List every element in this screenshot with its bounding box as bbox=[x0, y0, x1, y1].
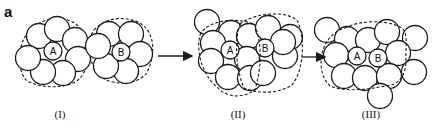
atom-circle bbox=[216, 65, 241, 90]
panel-label: (II) bbox=[231, 108, 246, 121]
atom-circle bbox=[86, 34, 111, 59]
atom-label: B bbox=[262, 43, 269, 54]
atom-circle bbox=[368, 84, 393, 109]
panel-label: (I) bbox=[55, 108, 66, 121]
aggregation-diagram: a AB(I) AB(II) AB(III) bbox=[0, 0, 444, 130]
figure-label: a bbox=[4, 3, 13, 20]
atom-label: B bbox=[375, 53, 382, 64]
atom-circle bbox=[251, 61, 276, 86]
atom-circle bbox=[402, 60, 427, 85]
atom-label: A bbox=[354, 51, 361, 62]
panel-i: AB(I) bbox=[16, 17, 153, 122]
panel-iii: AB(III) bbox=[315, 18, 428, 122]
atom-label: B bbox=[118, 47, 125, 58]
panel-ii: AB(II) bbox=[195, 10, 303, 122]
atom-label: A bbox=[227, 45, 234, 56]
atom-circle bbox=[16, 46, 41, 71]
atom-circle bbox=[271, 30, 296, 55]
panel-label: (III) bbox=[362, 108, 381, 121]
atom-label: A bbox=[50, 46, 57, 57]
